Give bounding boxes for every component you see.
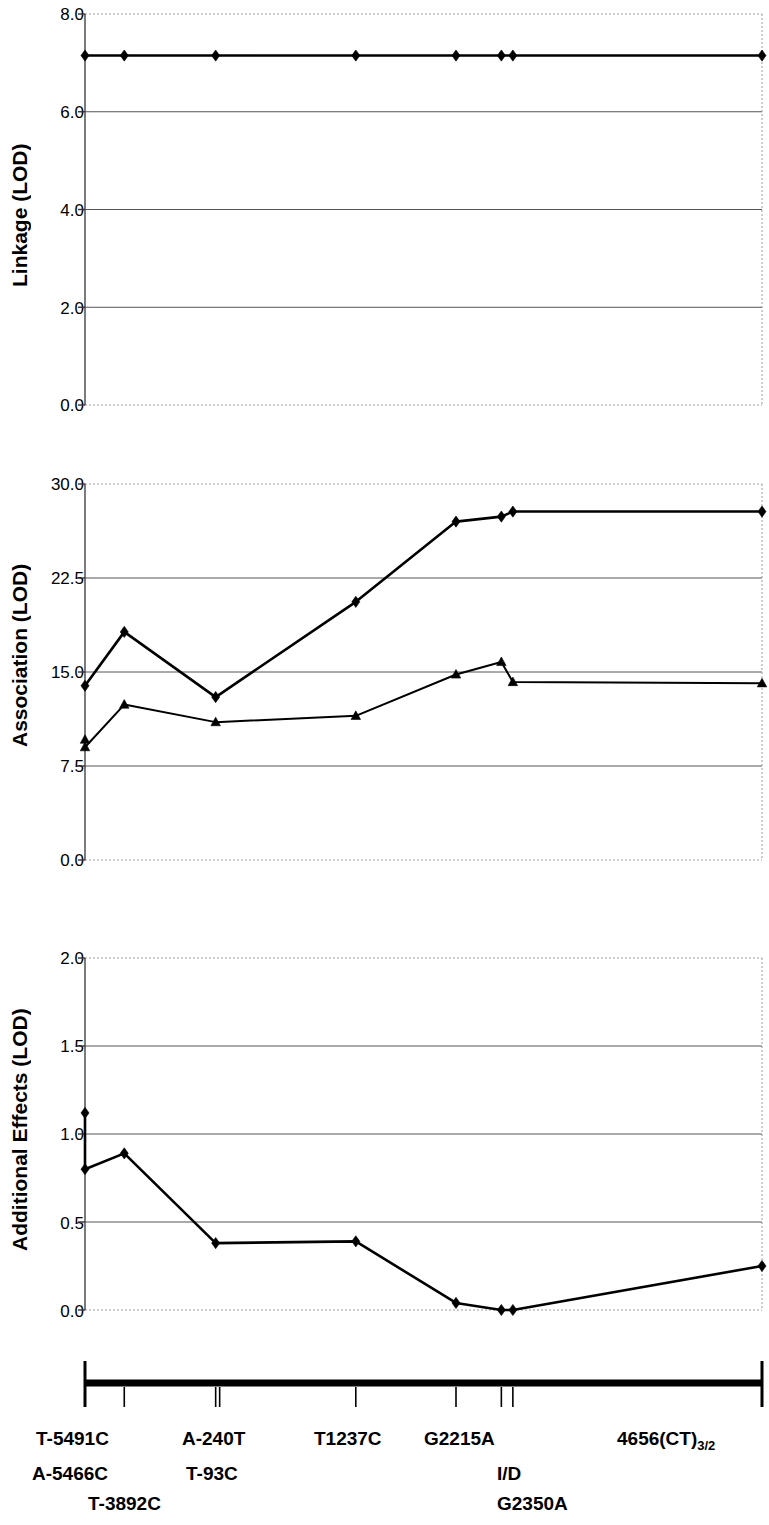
marker-label-1: A-240T <box>182 1428 245 1450</box>
marker-label-4: 4656(CT)3/2 <box>617 1428 715 1453</box>
figure-root: Linkage (LOD) 8.0 6.0 4.0 2.0 0.0 Associ… <box>0 0 769 1525</box>
marker-label-1: G2350A <box>497 1493 568 1515</box>
gene-map-axis <box>0 1355 769 1425</box>
marker-label-row-2: A-5466CT-93CI/D <box>0 1463 769 1491</box>
marker-label-0: A-5466C <box>32 1463 108 1485</box>
marker-label-row-3: T-3892CG2350A <box>0 1493 769 1521</box>
marker-label-row-1: T-5491CA-240TT1237CG2215A4656(CT)3/2 <box>0 1428 769 1456</box>
panel-association-plot <box>0 440 769 900</box>
panel-additional-effects: Additional Effects (LOD) 2.0 1.5 1.0 0.5… <box>0 930 769 1330</box>
marker-label-2: T1237C <box>314 1428 382 1450</box>
marker-label-3: G2215A <box>424 1428 495 1450</box>
panel-linkage-plot <box>0 0 769 420</box>
marker-label-0: T-3892C <box>88 1493 161 1515</box>
panel-linkage: Linkage (LOD) 8.0 6.0 4.0 2.0 0.0 <box>0 0 769 420</box>
marker-label-4-subscript: 3/2 <box>697 1438 715 1453</box>
marker-label-2: I/D <box>497 1463 521 1485</box>
panel-additional-effects-plot <box>0 930 769 1330</box>
marker-label-1: T-93C <box>186 1463 238 1485</box>
marker-label-0: T-5491C <box>36 1428 109 1450</box>
panel-association: Association (LOD) 30.0 22.5 15.0 7.5 0.0 <box>0 440 769 900</box>
